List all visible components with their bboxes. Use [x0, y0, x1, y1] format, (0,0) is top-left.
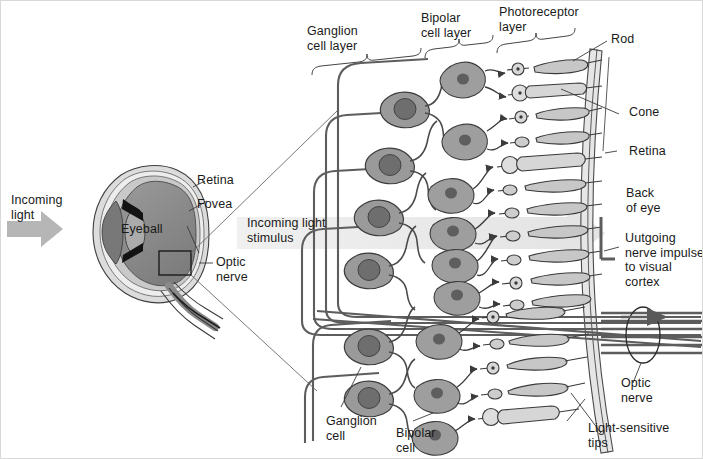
photoreceptor-rod — [480, 357, 587, 374]
ganglion-cell-layer-label: Ganglion cell layer — [307, 24, 358, 53]
back-of-eye-label: Back of eye — [626, 186, 661, 215]
bipolar-cell-body — [430, 218, 476, 252]
bipolar-cell-layer-label: Bipolar cell layer — [421, 11, 471, 40]
photoreceptor-rod — [482, 307, 585, 323]
rod-label: Rod — [611, 32, 634, 47]
ganglion-cell-body — [354, 200, 403, 236]
bipolar-cell-body — [440, 62, 485, 98]
bipolar-cell-body — [416, 325, 462, 360]
photoreceptor-rod — [483, 334, 589, 349]
bipolar-cell-body — [428, 179, 474, 214]
photoreceptor-layer-label: Photoreceptor layer — [499, 5, 579, 34]
ganglion-cell-body — [380, 92, 429, 128]
bipolar-cell-body — [442, 124, 487, 160]
cone-label: Cone — [629, 105, 659, 120]
photoreceptor-cone — [478, 406, 579, 426]
fovea-label: Fovea — [197, 197, 232, 212]
incoming-light-label: Incoming light — [11, 193, 63, 222]
eyeball-label: Eyeball — [121, 222, 163, 237]
retina-diagram-figure: Incoming light Eyeball Retina Fovea Opti… — [0, 0, 703, 459]
retina-eye-label: Retina — [197, 173, 234, 188]
optic-nerve-eye-label: Optic nerve — [216, 255, 248, 284]
ganglion-cell-label: Ganglion cell — [326, 414, 377, 443]
photoreceptor-rod — [481, 383, 585, 399]
light-sensitive-tips-label: Light-sensitive tips — [588, 421, 669, 450]
incoming-light-stimulus-label: Incoming light stimulus — [247, 216, 326, 245]
outgoing-impulse-marker — [601, 217, 615, 259]
ganglion-cell-body — [344, 253, 393, 289]
ganglion-cell-body — [365, 148, 414, 184]
outgoing-nerve-impulse-label: Uutgoing nerve impulse to visual cortex — [625, 231, 703, 289]
bipolar-cell-body — [414, 380, 460, 414]
optic-nerve-bundle — [601, 307, 703, 383]
eyeball-cross-section — [93, 166, 223, 339]
optic-nerve-right-label: Optic nerve — [621, 376, 653, 405]
bipolar-cell-body — [432, 250, 478, 284]
diagram-canvas — [1, 1, 703, 459]
sclera-edge-lines — [603, 57, 609, 151]
retina-right-label: Retina — [629, 144, 666, 159]
ganglion-cell-body — [344, 329, 393, 365]
bipolar-cell-label: Bipolar cell — [396, 426, 436, 455]
magnification-guide-lines — [191, 111, 337, 391]
bipolar-cell-body — [434, 282, 480, 316]
